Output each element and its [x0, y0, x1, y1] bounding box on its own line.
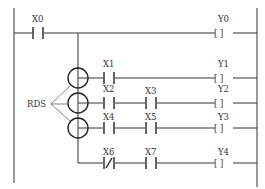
contact-label-x2: X2: [103, 84, 114, 94]
svg-text:[ ]: [ ]: [214, 28, 223, 38]
contact-label-x5: X5: [145, 112, 156, 122]
rung-2: X2 X3 [ ] Y2: [68, 84, 257, 113]
coil-y3: [ ]: [214, 123, 223, 133]
coil-label-y0: Y0: [217, 14, 229, 24]
contact-label-x3: X3: [145, 86, 156, 96]
coil-y4: [ ]: [214, 158, 223, 168]
rds-annotation: RDS: [27, 86, 70, 121]
contact-label-x0: X0: [32, 14, 43, 24]
coil-label-y1: Y1: [217, 59, 229, 69]
nc-slash: [106, 158, 112, 168]
coil-label-y3: Y3: [217, 112, 229, 122]
ladder-diagram: X0 [ ] Y0 X1 [ ] Y1 X2 X3 [ ] Y2: [0, 0, 265, 189]
contact-label-x1: X1: [103, 59, 114, 69]
rung-4: X6 X7 [ ] Y4: [78, 147, 257, 169]
contact-label-x6: X6: [103, 147, 114, 157]
coil-label-y4: Y4: [217, 147, 229, 157]
rds-label: RDS: [27, 99, 46, 109]
rung-3: X4 X5 [ ] Y3: [68, 112, 257, 138]
coil-y0: [ ]: [214, 28, 223, 38]
coil-y2: [ ]: [214, 98, 223, 108]
contact-x0: [33, 27, 43, 39]
rung-0: X0 [ ] Y0: [14, 14, 257, 39]
contact-label-x7: X7: [145, 147, 156, 157]
contact-label-x4: X4: [103, 112, 114, 122]
coil-label-y2: Y2: [217, 84, 229, 94]
coil-y1: [ ]: [214, 73, 223, 83]
